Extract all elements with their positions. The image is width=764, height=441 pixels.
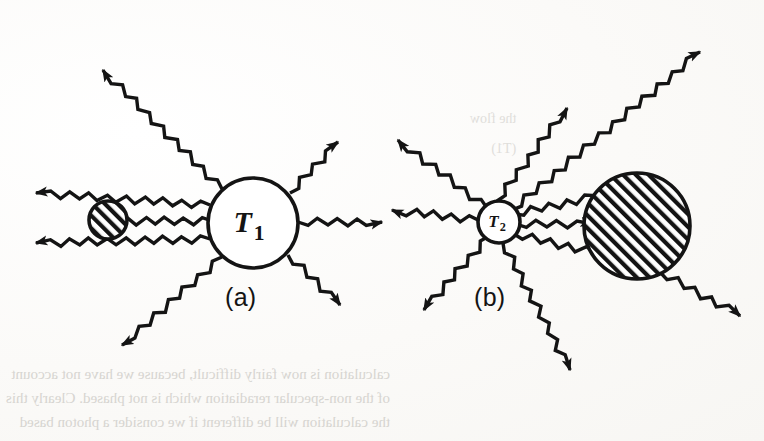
photon-ray-left-lower [36,236,210,246]
large-hatched-disk [584,173,690,279]
photon-ray-up-center [497,108,567,201]
photon-ray-up-left [103,70,222,189]
photon-ray-down-center [503,243,570,370]
photon-ray-down-right [660,272,740,316]
photon-ray-down-right [288,255,340,305]
panel-label-b: (b) [474,283,505,312]
photon-ray-up-right [290,142,338,193]
photon-ray-left-upper [36,191,210,208]
radiative-exchange-diagram: T1T2 [0,0,764,441]
photon-ray-up-left [398,140,487,208]
emitter-label-subscript: 2 [500,220,506,234]
photon-ray-right [298,218,382,226]
panel-label-a: (a) [225,283,256,312]
figure-page: the flow (T1) T1T2 (a) (b) calculation i… [0,0,764,441]
emitter-label-subscript: 1 [254,221,265,245]
small-hatched-disk [89,201,127,239]
photon-ray-left [392,209,478,222]
body-layer [89,173,690,279]
photon-ray-inner-middle [516,220,592,228]
photon-ray-down-left [122,257,222,345]
